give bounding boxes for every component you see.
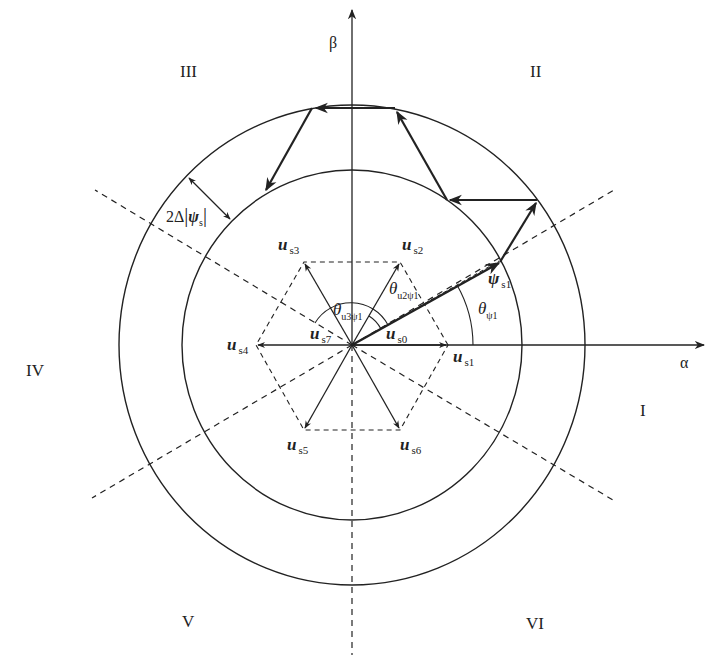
label-theta-psi1: θψ1 [478, 300, 498, 321]
label-theta-u3psi1: θu3ψ1 [333, 301, 363, 322]
sector-label-2: II [530, 63, 541, 80]
label-us1: us1 [453, 348, 474, 368]
arc-theta-u2psi1 [369, 316, 381, 329]
label-us5: us5 [287, 436, 308, 456]
sector-label-4: IV [26, 362, 44, 379]
sector-label-6: VI [526, 615, 544, 632]
label-us7: us7 [310, 325, 331, 345]
alpha-axis-label: α [680, 355, 688, 371]
label-theta-u2psi1: θu2ψ1 [389, 280, 419, 301]
beta-axis-label: β [329, 35, 337, 51]
vector-us6 [352, 345, 399, 428]
sector-label-3: III [180, 63, 197, 80]
diagram-canvas [0, 0, 719, 671]
vector-us5 [305, 345, 352, 428]
sector-line-330 [352, 345, 613, 500]
label-us4: us4 [227, 336, 248, 356]
label-us0: us0 [386, 325, 407, 345]
label-us2: us2 [402, 236, 423, 256]
label-psis1: ψs1 [488, 270, 511, 290]
label-band-width: 2Δ|ψs| [166, 205, 207, 228]
sector-label-5: V [182, 613, 194, 630]
label-us3: us3 [278, 236, 299, 256]
sector-label-1: I [640, 402, 646, 419]
arc-theta-psi1 [457, 285, 473, 345]
flux-vector-psis1 [352, 263, 499, 345]
label-us6: us6 [400, 436, 421, 456]
